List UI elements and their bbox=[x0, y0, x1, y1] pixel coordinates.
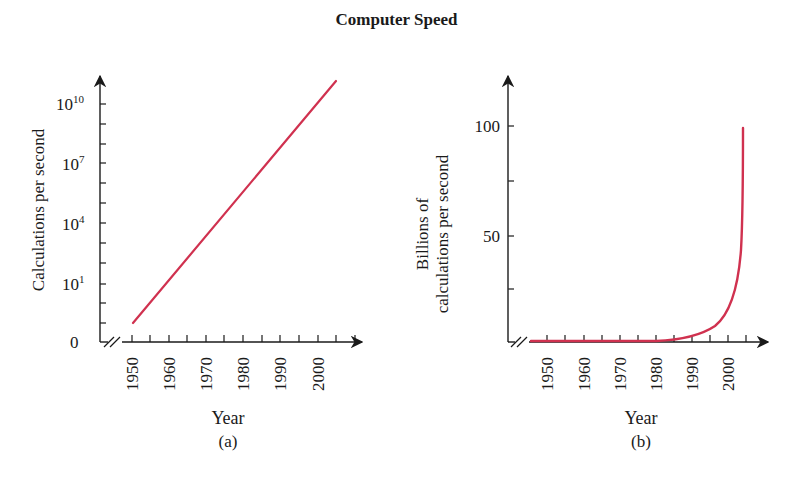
x-tick-label: 1980 bbox=[647, 357, 666, 391]
y-tick-label: 107 bbox=[62, 153, 85, 174]
y-tick-label: 101 bbox=[62, 273, 85, 294]
y-tick-labels-a: 1010 107 104 101 0 bbox=[56, 93, 85, 352]
y-tick-label: 0 bbox=[70, 333, 79, 352]
x-tick-label: 1970 bbox=[611, 357, 630, 391]
x-tick-label: 2000 bbox=[719, 357, 738, 391]
y-tick-label: 104 bbox=[62, 213, 85, 234]
x-tick-label: 1980 bbox=[234, 357, 253, 391]
data-line-a bbox=[133, 81, 336, 323]
panel-label-b: (b) bbox=[631, 432, 651, 451]
y-axis-label-b-line2: calculations per second bbox=[433, 154, 452, 313]
panel-b: 100 50 Billions of calculations per seco… bbox=[413, 76, 768, 451]
panel-label-a: (a) bbox=[219, 432, 238, 451]
y-axis-label-b-line1: Billions of bbox=[413, 198, 432, 271]
x-axis-label-b: Year bbox=[624, 408, 657, 428]
x-tick-label: 1960 bbox=[160, 357, 179, 391]
x-tick-label: 1970 bbox=[197, 357, 216, 391]
x-tick-label: 1990 bbox=[271, 357, 290, 391]
x-ticks-a bbox=[132, 335, 355, 342]
y-tick-label: 50 bbox=[483, 227, 500, 246]
x-tick-label: 2000 bbox=[309, 357, 328, 391]
y-tick-label: 100 bbox=[475, 117, 501, 136]
x-tick-label: 1950 bbox=[123, 357, 142, 391]
data-curve-b bbox=[531, 128, 743, 341]
x-tick-labels-b: 1950 1960 1970 1980 1990 2000 bbox=[538, 357, 738, 391]
panel-a: 1010 107 104 101 0 Calculations per seco… bbox=[29, 76, 362, 451]
chart-canvas: 1010 107 104 101 0 Calculations per seco… bbox=[0, 0, 793, 479]
y-tick-label: 1010 bbox=[56, 93, 85, 114]
y-axis-label-a: Calculations per second bbox=[29, 128, 48, 291]
x-tick-labels-a: 1950 1960 1970 1980 1990 2000 bbox=[123, 357, 328, 391]
y-tick-labels-b: 100 50 bbox=[475, 117, 501, 246]
y-ticks-b bbox=[508, 126, 514, 289]
y-ticks-a bbox=[100, 104, 106, 323]
x-axis-label-a: Year bbox=[211, 408, 244, 428]
x-tick-label: 1990 bbox=[683, 357, 702, 391]
x-tick-label: 1950 bbox=[538, 357, 557, 391]
x-tick-label: 1960 bbox=[575, 357, 594, 391]
